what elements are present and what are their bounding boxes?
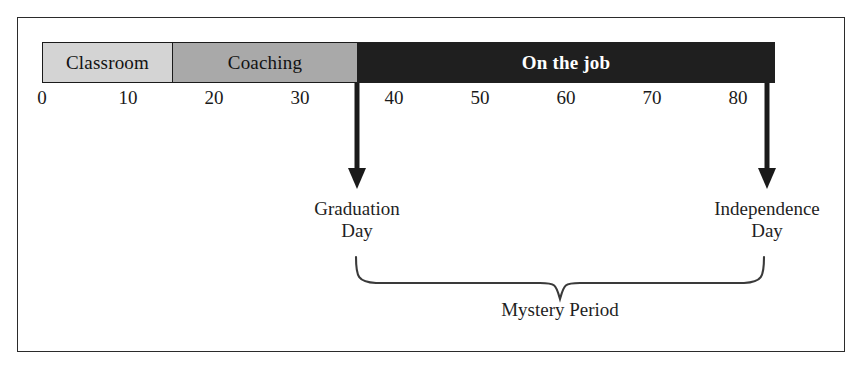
tick-label-30: 30 xyxy=(291,88,310,107)
tick-label-70: 70 xyxy=(643,88,662,107)
figure-canvas: Classroom Coaching On the job 0 10 20 30… xyxy=(0,0,863,367)
tick-label-20: 20 xyxy=(205,88,224,107)
timeline-bar: Classroom Coaching On the job xyxy=(42,42,775,83)
bar-segment-coaching: Coaching xyxy=(172,42,357,83)
mystery-period-label: Mystery Period xyxy=(501,300,619,319)
tick-label-0: 0 xyxy=(37,88,47,107)
independence-day-line1: Independence xyxy=(714,198,820,220)
tick-label-10: 10 xyxy=(119,88,138,107)
bar-segment-label-coaching: Coaching xyxy=(228,53,302,72)
axis-tick-labels: 0 10 20 30 40 50 60 70 80 xyxy=(0,88,863,116)
independence-day-arrow-icon xyxy=(755,83,779,193)
tick-label-40: 40 xyxy=(385,88,404,107)
graduation-day-line1: Graduation xyxy=(314,198,399,220)
graduation-day-arrow-icon xyxy=(345,83,369,193)
graduation-day-caption: Graduation Day xyxy=(314,198,399,242)
bar-segment-label-classroom: Classroom xyxy=(66,53,149,72)
tick-label-50: 50 xyxy=(471,88,490,107)
bar-segment-label-on-the-job: On the job xyxy=(522,53,611,72)
bar-segment-classroom: Classroom xyxy=(42,42,172,83)
mystery-period-brace-icon xyxy=(330,255,790,305)
graduation-day-line2: Day xyxy=(314,220,399,242)
independence-day-caption: Independence Day xyxy=(714,198,820,242)
bar-segment-on-the-job: On the job xyxy=(357,42,775,83)
tick-label-60: 60 xyxy=(557,88,576,107)
independence-day-line2: Day xyxy=(714,220,820,242)
tick-label-80: 80 xyxy=(729,88,748,107)
